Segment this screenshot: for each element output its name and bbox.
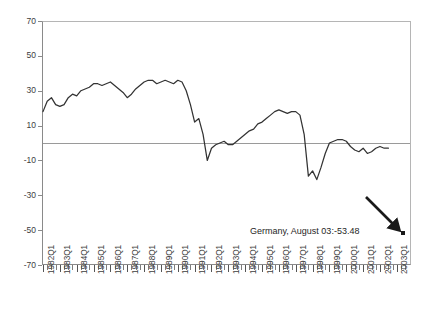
x-tick-label: 1997Q1	[299, 245, 308, 274]
x-tick-mark	[207, 265, 208, 270]
x-tick-mark	[110, 265, 111, 272]
x-tick-mark	[94, 265, 95, 272]
x-tick-mark	[342, 265, 343, 270]
x-tick-label: 1995Q1	[266, 245, 275, 274]
x-tick-mark	[140, 265, 141, 270]
x-tick-mark	[313, 265, 314, 272]
chart-container: 70503010-10-30-50-70 1982Q11983Q11984Q11…	[0, 0, 426, 321]
x-tick-label: 1991Q1	[198, 245, 207, 274]
x-tick-label: 1999Q1	[333, 245, 342, 274]
end-point-marker	[401, 231, 405, 235]
x-tick-label: 1986Q1	[114, 245, 123, 274]
x-tick-mark	[144, 265, 145, 272]
x-tick-mark	[397, 265, 398, 272]
x-tick-label: 1996Q1	[282, 245, 291, 274]
x-tick-mark	[43, 265, 44, 272]
x-tick-mark	[329, 265, 330, 272]
x-tick-mark	[380, 265, 381, 272]
x-tick-mark	[363, 265, 364, 272]
x-tick-mark	[60, 265, 61, 272]
x-tick-mark	[211, 265, 212, 272]
x-tick-mark	[325, 265, 326, 270]
x-tick-label: 1982Q1	[47, 245, 56, 274]
x-tick-mark	[123, 265, 124, 270]
x-tick-label: 2000Q1	[350, 245, 359, 274]
x-tick-mark	[224, 265, 225, 270]
y-tick-label: -10	[2, 156, 36, 164]
x-tick-mark	[228, 265, 229, 272]
y-tick-label: 30	[2, 86, 36, 94]
x-tick-mark	[346, 265, 347, 272]
x-tick-mark	[359, 265, 360, 270]
x-tick-mark	[127, 265, 128, 272]
y-tick-label: 10	[2, 121, 36, 129]
x-tick-label: 1988Q1	[148, 245, 157, 274]
x-tick-label: 1990Q1	[181, 245, 190, 274]
annotation-label: Germany, August 03:-53.48	[250, 226, 359, 236]
x-tick-label: 1985Q1	[97, 245, 106, 274]
x-tick-label: 1983Q1	[63, 245, 72, 274]
x-tick-label: 2003Q1	[400, 245, 409, 274]
series-polyline	[43, 80, 388, 179]
x-tick-label: 1989Q1	[165, 245, 174, 274]
y-tick-label: -30	[2, 191, 36, 199]
x-tick-mark	[89, 265, 90, 270]
y-tick-label: 70	[2, 17, 36, 25]
y-tick-label: -50	[2, 226, 36, 234]
x-tick-mark	[292, 265, 293, 270]
x-tick-mark	[279, 265, 280, 272]
x-tick-mark	[195, 265, 196, 272]
x-tick-mark	[241, 265, 242, 270]
x-tick-label: 1994Q1	[249, 245, 258, 274]
x-tick-mark	[245, 265, 246, 272]
x-tick-mark	[262, 265, 263, 272]
x-tick-label: 2002Q1	[384, 245, 393, 274]
x-tick-mark	[106, 265, 107, 270]
x-tick-label: 1993Q1	[232, 245, 241, 274]
x-tick-mark	[178, 265, 179, 272]
x-tick-label: 1984Q1	[80, 245, 89, 274]
x-tick-mark	[77, 265, 78, 272]
x-tick-mark	[161, 265, 162, 272]
x-tick-label: 1992Q1	[215, 245, 224, 274]
y-tick-label: -70	[2, 261, 36, 269]
x-tick-mark	[308, 265, 309, 270]
x-tick-mark	[72, 265, 73, 270]
x-tick-label: 1987Q1	[131, 245, 140, 274]
y-tick-label: 50	[2, 51, 36, 59]
x-tick-label: 2001Q1	[367, 245, 376, 274]
x-tick-mark	[190, 265, 191, 270]
x-tick-label: 1998Q1	[316, 245, 325, 274]
x-tick-mark	[296, 265, 297, 272]
